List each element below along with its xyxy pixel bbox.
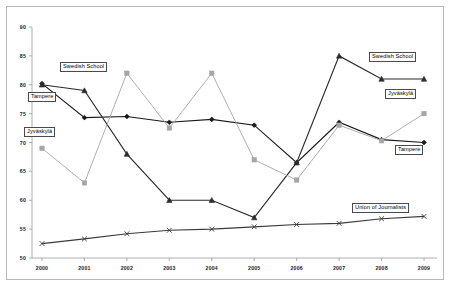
series-swedish-school [39, 53, 426, 220]
series-callout-label: Jyväskylä [24, 127, 55, 137]
series-callout-label: Tampere [395, 145, 423, 155]
series-callout-label: Union of Journalists [352, 203, 409, 213]
series-jyväskylä [40, 71, 426, 185]
data-point-marker [209, 117, 214, 122]
y-tick-label: 60 [6, 197, 26, 203]
x-tick-label: 2002 [110, 265, 144, 271]
x-tick-label: 2007 [322, 265, 356, 271]
x-tick-label: 2005 [237, 265, 271, 271]
data-point-marker [294, 178, 298, 182]
x-tick-label: 2009 [407, 265, 441, 271]
chart-root: 5055606570758085902000200120022003200420… [0, 0, 452, 294]
data-point-marker [82, 181, 86, 185]
y-tick-label: 85 [6, 53, 26, 59]
y-tick-label: 50 [6, 255, 26, 261]
y-tick-label: 55 [6, 226, 26, 232]
data-point-marker [125, 71, 129, 75]
x-tick-label: 2008 [365, 265, 399, 271]
data-point-marker [167, 120, 172, 125]
data-point-marker [124, 114, 129, 119]
data-point-marker [252, 158, 256, 162]
y-tick-label: 80 [6, 82, 26, 88]
series-union-of-journalists [40, 214, 427, 246]
x-tick-label: 2001 [67, 265, 101, 271]
series-callout-label: Tampere [28, 92, 56, 102]
data-point-marker [422, 111, 426, 115]
data-point-marker [337, 123, 341, 127]
y-axis-ticks [29, 27, 32, 258]
data-point-marker [210, 71, 214, 75]
data-point-marker [40, 146, 44, 150]
y-tick-label: 65 [6, 168, 26, 174]
y-tick-label: 75 [6, 111, 26, 117]
x-tick-label: 2003 [152, 265, 186, 271]
line-chart-canvas [0, 0, 452, 294]
x-axis-ticks [42, 258, 424, 261]
data-point-marker [336, 53, 341, 58]
x-tick-label: 2006 [280, 265, 314, 271]
series-callout-label: Jyväskylä [385, 89, 416, 99]
y-tick-label: 70 [6, 140, 26, 146]
x-tick-label: 2004 [195, 265, 229, 271]
data-point-marker [167, 126, 171, 130]
series-callout-label: Swedish School [60, 62, 107, 72]
data-point-marker [379, 139, 383, 143]
series-callout-label: Swedish School [369, 52, 416, 62]
series-tampere [40, 81, 427, 165]
y-tick-label: 90 [6, 24, 26, 30]
x-tick-label: 2000 [25, 265, 59, 271]
